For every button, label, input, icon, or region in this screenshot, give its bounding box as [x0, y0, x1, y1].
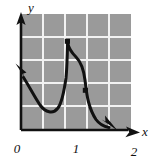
local-maximum-point-marker	[65, 39, 70, 44]
x-axis-label: x	[141, 124, 148, 139]
y-axis-label: y	[26, 0, 34, 15]
x-tick-label-2: 2	[131, 144, 138, 159]
x-tick-label-1: 1	[73, 141, 80, 156]
plot-area-background	[21, 14, 131, 130]
inflection-point-marker	[83, 88, 88, 93]
figure-container: y x 0 1 2	[0, 0, 152, 163]
curve-chart: y x 0 1 2	[0, 0, 152, 163]
x-axis-arrowhead	[125, 127, 140, 138]
x-tick-label-0: 0	[14, 141, 21, 156]
